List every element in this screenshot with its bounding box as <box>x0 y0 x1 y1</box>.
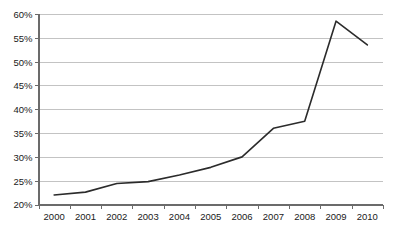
y-tick-label: 50% <box>13 57 33 68</box>
y-tick-label: 25% <box>13 176 33 187</box>
x-axis-ticks: 2000200120022003200420052006200720082009… <box>39 205 384 222</box>
y-tick-label: 45% <box>13 80 33 91</box>
x-tick-label: 2009 <box>325 211 346 222</box>
x-tick-label: 2000 <box>44 211 65 222</box>
y-tick-label: 35% <box>13 128 33 139</box>
y-tick-label: 30% <box>13 152 33 163</box>
y-tick-label: 55% <box>13 33 33 44</box>
x-tick-label: 2002 <box>106 211 127 222</box>
x-tick-label: 2005 <box>200 211 221 222</box>
series-line <box>54 21 367 195</box>
y-tick-label: 40% <box>13 104 33 115</box>
x-tick-label: 2006 <box>231 211 252 222</box>
y-tick-label: 60% <box>13 9 33 20</box>
line-chart: 20%25%30%35%40%45%50%55%60%2000200120022… <box>0 0 401 238</box>
gridlines <box>39 15 384 206</box>
x-tick-label: 2003 <box>138 211 159 222</box>
chart-canvas: 20%25%30%35%40%45%50%55%60%2000200120022… <box>0 0 401 238</box>
x-tick-label: 2004 <box>169 211 190 222</box>
x-tick-label: 2008 <box>294 211 315 222</box>
y-tick-label: 20% <box>13 199 33 210</box>
y-axis-ticks: 20%25%30%35%40%45%50%55%60% <box>13 9 39 211</box>
x-tick-label: 2007 <box>263 211 284 222</box>
x-tick-label: 2001 <box>75 211 96 222</box>
x-tick-label: 2010 <box>357 211 378 222</box>
